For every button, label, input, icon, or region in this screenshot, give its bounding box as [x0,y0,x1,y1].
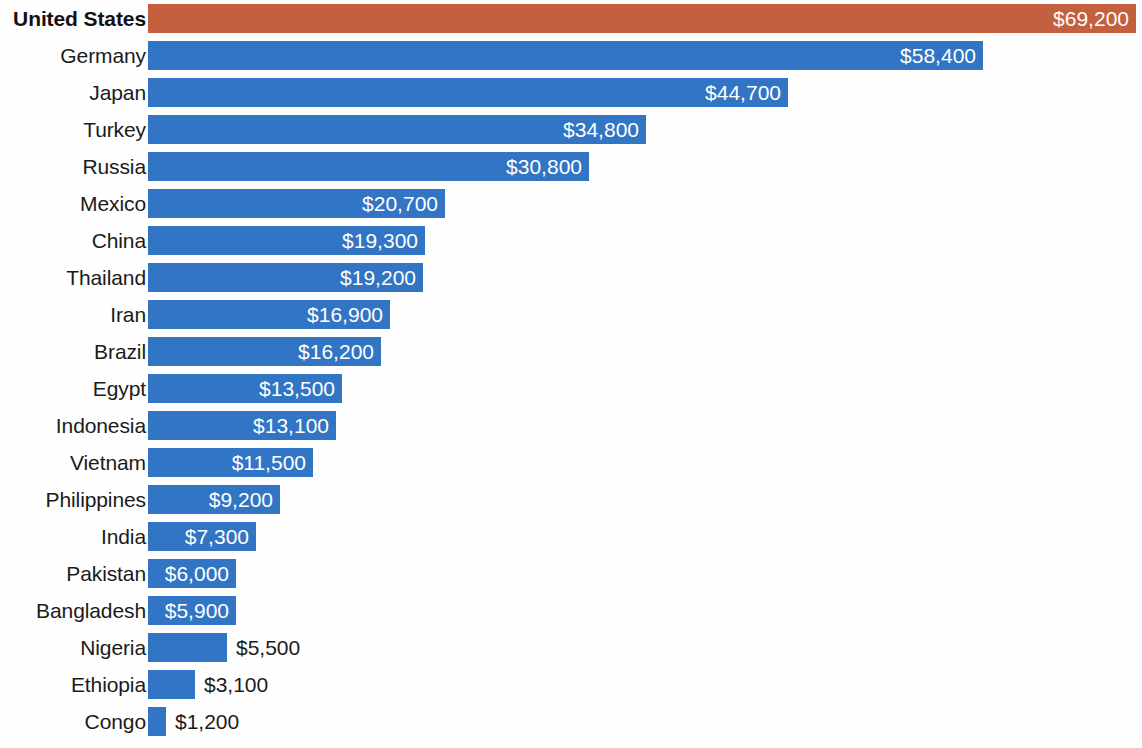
bar-row: Nigeria$5,500 [0,629,1142,666]
bar: $13,500 [148,374,342,403]
bar-row: Ethiopia$3,100 [0,666,1142,703]
category-label: Iran [0,300,148,329]
bar-value-label: $13,500 [259,374,342,403]
category-label: Vietnam [0,448,148,477]
bar-track: $13,500 [148,374,1142,403]
bar-track: $16,200 [148,337,1142,366]
bar: $19,200 [148,263,423,292]
bar-row: Turkey$34,800 [0,111,1142,148]
category-label: United States [0,4,148,33]
bar-track: $20,700 [148,189,1142,218]
bar-row: Russia$30,800 [0,148,1142,185]
bar-track: $58,400 [148,41,1142,70]
bar-track: $19,200 [148,263,1142,292]
bar-track: $44,700 [148,78,1142,107]
bar-value-label: $16,900 [307,300,390,329]
category-label: Germany [0,41,148,70]
bar-value-label: $3,100 [195,670,268,699]
category-label: Indonesia [0,411,148,440]
category-label: Congo [0,707,148,736]
bar-value-label: $19,300 [342,226,425,255]
category-label: Brazil [0,337,148,366]
bar [148,707,166,736]
category-label: Philippines [0,485,148,514]
bar-row: Germany$58,400 [0,37,1142,74]
bar-track: $3,100 [148,670,1142,699]
bar-track: $69,200 [148,4,1142,33]
bar: $19,300 [148,226,425,255]
bar: $44,700 [148,78,788,107]
bar-track: $11,500 [148,448,1142,477]
bar-row: China$19,300 [0,222,1142,259]
bar: $16,900 [148,300,390,329]
bar: $7,300 [148,522,256,551]
bar-track: $7,300 [148,522,1142,551]
bar-track: $34,800 [148,115,1142,144]
category-label: Mexico [0,189,148,218]
category-label: Russia [0,152,148,181]
bar-track: $5,900 [148,596,1142,625]
bar: $30,800 [148,152,589,181]
bar-value-label: $30,800 [506,152,589,181]
bar-track: $30,800 [148,152,1142,181]
bar-value-label: $11,500 [232,448,313,477]
bar [148,633,227,662]
category-label: Turkey [0,115,148,144]
bar-row: Brazil$16,200 [0,333,1142,370]
bar: $13,100 [148,411,336,440]
bar-row: Congo$1,200 [0,703,1142,740]
bar: $20,700 [148,189,445,218]
bar-value-label: $34,800 [563,115,646,144]
bar-chart-rows: United States$69,200Germany$58,400Japan$… [0,0,1142,740]
bar-value-label: $6,000 [165,559,236,588]
bar-chart: United States$69,200Germany$58,400Japan$… [0,0,1142,748]
bar-row: United States$69,200 [0,0,1142,37]
bar: $16,200 [148,337,381,366]
category-label: Pakistan [0,559,148,588]
bar-track: $1,200 [148,707,1142,736]
bar-row: Mexico$20,700 [0,185,1142,222]
bar-value-label: $5,900 [165,596,236,625]
bar-row: Thailand$19,200 [0,259,1142,296]
bar-value-label: $16,200 [298,337,381,366]
bar-row: Philippines$9,200 [0,481,1142,518]
bar-row: Egypt$13,500 [0,370,1142,407]
bar-row: Vietnam$11,500 [0,444,1142,481]
bar-value-label: $69,200 [1053,4,1136,33]
bar: $9,200 [148,485,280,514]
bar-row: India$7,300 [0,518,1142,555]
bar-value-label: $1,200 [166,707,239,736]
bar-value-label: $44,700 [705,78,788,107]
bar-value-label: $7,300 [185,522,256,551]
bar-track: $5,500 [148,633,1142,662]
bar: $58,400 [148,41,983,70]
bar-value-label: $20,700 [362,189,445,218]
category-label: Egypt [0,374,148,403]
bar-row: Pakistan$6,000 [0,555,1142,592]
bar [148,670,195,699]
bar-value-label: $19,200 [340,263,423,292]
category-label: Thailand [0,263,148,292]
category-label: Ethiopia [0,670,148,699]
bar: $69,200 [148,4,1136,33]
bar-value-label: $58,400 [900,41,983,70]
bar-row: Indonesia$13,100 [0,407,1142,444]
bar-track: $19,300 [148,226,1142,255]
bar-track: $16,900 [148,300,1142,329]
category-label: China [0,226,148,255]
bar: $6,000 [148,559,236,588]
bar-row: Japan$44,700 [0,74,1142,111]
bar-value-label: $9,200 [209,485,280,514]
bar: $5,900 [148,596,236,625]
bar: $11,500 [148,448,313,477]
bar-value-label: $13,100 [253,411,336,440]
category-label: Nigeria [0,633,148,662]
category-label: India [0,522,148,551]
category-label: Bangladesh [0,596,148,625]
bar-track: $13,100 [148,411,1142,440]
bar-row: Bangladesh$5,900 [0,592,1142,629]
bar-row: Iran$16,900 [0,296,1142,333]
bar-value-label: $5,500 [227,633,300,662]
bar-track: $6,000 [148,559,1142,588]
bar: $34,800 [148,115,646,144]
